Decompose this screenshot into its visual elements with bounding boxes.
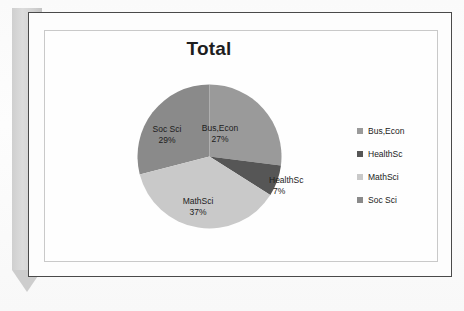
- pie-label-mathsci-percent: 37%: [168, 207, 228, 218]
- legend-swatch-icon: [357, 151, 363, 157]
- legend-item-healthsc[interactable]: HealthSc: [357, 145, 437, 163]
- pie-label-soc-sci: Soc Sci 29%: [137, 124, 197, 146]
- pie-label-mathsci-text: MathSci: [183, 196, 214, 206]
- legend-swatch-icon: [357, 197, 363, 203]
- slide-screenshot: Total Bus,Econ 27% Soc Sci 29%: [0, 0, 464, 311]
- pie-label-healthsc-percent: 7%: [269, 186, 329, 197]
- pie-label-soc-sci-text: Soc Sci: [153, 124, 182, 134]
- legend-label: MathSci: [368, 172, 399, 182]
- legend-item-bus-econ[interactable]: Bus,Econ: [357, 122, 437, 140]
- legend-swatch-icon: [357, 174, 363, 180]
- legend-item-mathsci[interactable]: MathSci: [357, 168, 437, 186]
- legend-label: Bus,Econ: [368, 126, 404, 136]
- pie-label-soc-sci-percent: 29%: [137, 135, 197, 146]
- pie-label-mathsci: MathSci 37%: [168, 196, 228, 218]
- legend-label: Soc Sci: [368, 195, 397, 205]
- pie-label-bus-econ: Bus,Econ 27%: [190, 123, 250, 145]
- chart-legend: Bus,Econ HealthSc MathSci Soc Sci: [357, 122, 437, 214]
- legend-swatch-icon: [357, 128, 363, 134]
- legend-item-soc-sci[interactable]: Soc Sci: [357, 191, 437, 209]
- pie-label-bus-econ-text: Bus,Econ: [202, 123, 238, 133]
- chart-title: Total: [44, 38, 374, 60]
- pie-chart-container: Total Bus,Econ 27% Soc Sci 29%: [44, 30, 438, 262]
- legend-label: HealthSc: [368, 149, 403, 159]
- pie-label-bus-econ-percent: 27%: [190, 134, 250, 145]
- pie-label-healthsc-text: HealthSc: [269, 175, 304, 185]
- pie-label-healthsc: HealthSc 7%: [269, 175, 329, 197]
